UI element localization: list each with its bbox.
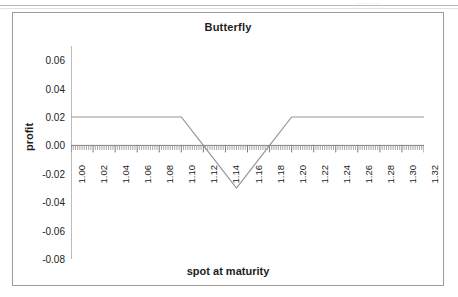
page-top-rule-secondary [0, 8, 458, 9]
y-tick-label: -0.08 [25, 254, 65, 265]
x-tick-label: 1.26 [363, 165, 374, 199]
page-header-fragment: ............. [356, 0, 414, 4]
plot-area [71, 46, 424, 259]
y-axis-tick-labels: 0.060.040.020.00-0.02-0.04-0.06-0.08 [19, 46, 65, 259]
x-tick-label: 1.06 [142, 165, 153, 199]
page-root: ............. Butterfly profit 0.060.040… [0, 0, 458, 297]
x-tick-label: 1.12 [208, 165, 219, 199]
x-tick-label: 1.04 [120, 165, 131, 199]
x-tick-label: 1.22 [319, 165, 330, 199]
x-tick-label: 1.14 [230, 165, 241, 199]
y-tick-label: 0.06 [25, 55, 65, 66]
x-tick-label: 1.16 [253, 165, 264, 199]
y-tick-label: -0.02 [25, 168, 65, 179]
y-tick-label: 0.00 [25, 140, 65, 151]
y-tick-label: -0.06 [25, 225, 65, 236]
chart-frame: Butterfly profit 0.060.040.020.00-0.02-0… [12, 12, 444, 286]
x-tick-label: 1.24 [341, 165, 352, 199]
x-tick-label: 1.10 [186, 165, 197, 199]
x-tick-label: 1.02 [98, 165, 109, 199]
y-tick-label: 0.02 [25, 112, 65, 123]
x-axis-title: spot at maturity [13, 265, 443, 277]
x-tick-label: 1.32 [429, 165, 440, 199]
x-tick-label: 1.28 [385, 165, 396, 199]
x-tick-label: 1.20 [297, 165, 308, 199]
x-tick-label: 1.00 [76, 165, 87, 199]
plot-svg [71, 46, 424, 259]
x-tick-label: 1.30 [407, 165, 418, 199]
x-tick-label: 1.08 [164, 165, 175, 199]
x-tick-label: 1.18 [275, 165, 286, 199]
y-tick-label: -0.04 [25, 197, 65, 208]
x-axis-tick-labels: 1.001.021.041.061.081.101.121.141.161.18… [71, 165, 424, 205]
chart-title: Butterfly [13, 21, 443, 33]
y-tick-label: 0.04 [25, 83, 65, 94]
page-top-rule [0, 5, 458, 6]
